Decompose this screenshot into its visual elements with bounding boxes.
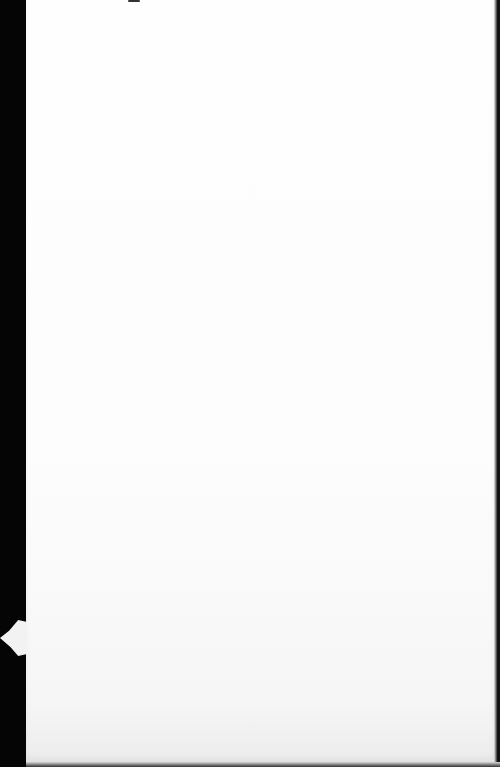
paper-bottom-edge — [26, 762, 500, 767]
blank-paper-sheet — [26, 0, 494, 762]
dark-background-right — [494, 0, 500, 767]
top-edge-mark — [128, 0, 140, 2]
